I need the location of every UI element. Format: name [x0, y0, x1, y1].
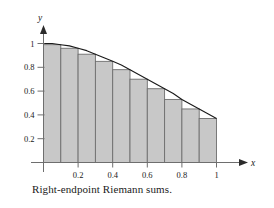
y-axis-tick-label: 0.8 [24, 62, 35, 72]
y-axis-tick-label: 1 [30, 39, 34, 49]
riemann-rectangle [95, 61, 112, 162]
y-axis-tick-label: 0.4 [24, 110, 35, 120]
x-ticks-group: 0.20.40.60.81 [73, 163, 219, 180]
y-axis-label: y [37, 13, 43, 23]
y-ticks-group: 0.20.40.60.81 [24, 39, 45, 144]
riemann-rectangle [61, 48, 78, 162]
riemann-rectangle [182, 109, 199, 163]
y-axis-tick-label: 0.6 [24, 86, 35, 96]
riemann-rectangle [44, 45, 61, 163]
x-axis-arrow-icon [239, 159, 248, 166]
riemann-sum-plot: 0.20.40.60.81 0.20.40.60.81 x y [0, 0, 274, 208]
riemann-rectangle [113, 70, 130, 163]
x-axis-tick-label: 0.6 [142, 170, 153, 180]
riemann-rectangle [130, 79, 147, 162]
y-axis-arrow-icon [40, 25, 47, 34]
x-axis-tick-label: 1 [214, 170, 218, 180]
riemann-sum-figure: 0.20.40.60.81 0.20.40.60.81 x y Right-en… [0, 0, 274, 208]
y-axis-tick-label: 0.2 [24, 134, 35, 144]
riemann-rectangle [147, 89, 164, 163]
riemann-rectangle [199, 118, 216, 162]
riemann-rectangle [165, 99, 182, 162]
x-axis-tick-label: 0.8 [177, 170, 188, 180]
riemann-rectangle [78, 54, 95, 162]
figure-caption: Right-endpoint Riemann sums. [32, 183, 172, 195]
x-axis-tick-label: 0.4 [107, 170, 118, 180]
x-axis-tick-label: 0.2 [73, 170, 84, 180]
x-axis-label: x [250, 158, 256, 168]
